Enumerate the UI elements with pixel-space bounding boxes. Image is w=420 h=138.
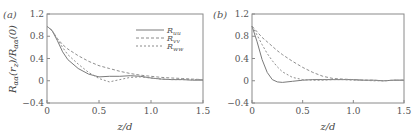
y-tick-label: 0.8 (30, 31, 45, 41)
y-tick-label: −0.4 (22, 98, 44, 108)
x-axis-label-b: z/d (319, 121, 335, 132)
y-axis-a: 1.20.80.40−0.4 (22, 9, 50, 108)
x-tick-label: 1.0 (144, 106, 159, 116)
y-tick-label: 1.2 (235, 9, 249, 19)
y-axis-label-a: Rαα(rz)/Rαα(0) (7, 25, 20, 94)
y-tick-label: 1.2 (30, 9, 44, 19)
y-tick-label: 0 (38, 76, 44, 86)
x-axis-a: 00.51.01.5 (44, 100, 210, 116)
y-tick-label: −0.4 (227, 98, 249, 108)
series-line-r-vv (252, 26, 404, 81)
x-tick-label: 1.5 (397, 106, 412, 116)
panel-b-label: (b) (213, 9, 227, 20)
panel-a-label: (a) (3, 9, 17, 20)
panel-b: (b) 1.20.80.40−0.4 00.51.01.5 z/d (213, 9, 411, 132)
y-tick-label: 0.4 (30, 54, 45, 64)
x-tick-label: 0 (44, 106, 50, 116)
x-axis-b: 00.51.01.5 (249, 100, 411, 116)
y-tick-label: 0 (243, 76, 249, 86)
x-tick-label: 0.5 (296, 106, 311, 116)
legend: Ruu Rvv Rww (136, 26, 184, 52)
series-line-r-ww (252, 26, 404, 81)
y-tick-label: 0.8 (235, 31, 250, 41)
x-tick-label: 1.5 (196, 106, 211, 116)
x-tick-label: 0 (249, 106, 255, 116)
panel-a: (a) 1.20.80.40−0.4 00.51.01.5 Rαα(rz)/Rα… (3, 9, 210, 132)
plot-b-lines (252, 26, 404, 82)
plot-b-frame (252, 14, 404, 103)
x-axis-label-a: z/d (116, 121, 132, 132)
y-tick-label: 0.4 (235, 54, 250, 64)
x-tick-label: 1.0 (346, 106, 361, 116)
series-line-r-uu (252, 26, 404, 82)
figure: (a) 1.20.80.40−0.4 00.51.01.5 Rαα(rz)/Rα… (0, 0, 420, 138)
x-tick-label: 0.5 (92, 106, 107, 116)
plot-a-frame (47, 14, 203, 103)
y-axis-b: 1.20.80.40−0.4 (227, 9, 255, 108)
